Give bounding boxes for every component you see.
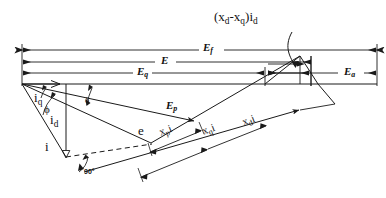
label-delta: δ: [85, 96, 89, 105]
label-ep: Ep: [166, 100, 177, 113]
dimension-arrow-ef: [22, 44, 377, 86]
phasor-diagram-figure: (xd-xq)id Ef E Eq Ea Ep iq id i e xpi xq…: [0, 0, 386, 198]
label-e: E: [161, 55, 168, 68]
label-iq-sub: q: [38, 97, 43, 107]
right-tail-line: [300, 104, 335, 110]
label-ef-sub: f: [210, 46, 213, 55]
label-e-small: e: [138, 124, 144, 137]
segment-xqi: [138, 147, 208, 182]
segment-xdi-bracket: [208, 123, 267, 149]
label-ef: Ef: [203, 42, 213, 55]
label-i: i: [45, 140, 49, 153]
label-delta-glyph: δ: [85, 95, 89, 105]
phasor-diagram-canvas: [0, 0, 386, 198]
label-phi-glyph: ϕ: [44, 103, 50, 115]
label-right-angle-text: 90°: [84, 168, 95, 175]
label-e-base: E: [161, 54, 168, 66]
label-top-annotation: (xd-xq)id: [214, 10, 258, 26]
label-right-angle: 90°: [84, 168, 95, 175]
annotation-i-sub: d: [253, 16, 258, 26]
dashed-quadrature-line: [66, 144, 152, 157]
label-e-small-base: e: [138, 123, 144, 138]
label-iq: iq: [34, 91, 42, 107]
label-ea-sub: a: [351, 70, 355, 79]
label-eq: Eq: [137, 66, 148, 79]
label-i-base: i: [45, 139, 49, 154]
label-ea: Ea: [344, 66, 355, 79]
label-eq-sub: q: [144, 70, 148, 79]
label-id: id: [50, 113, 58, 129]
apex-inner-arrows: [268, 62, 309, 76]
label-ep-sub: p: [173, 104, 177, 113]
label-phi: ϕ: [44, 104, 50, 115]
label-id-sub: d: [54, 119, 59, 129]
